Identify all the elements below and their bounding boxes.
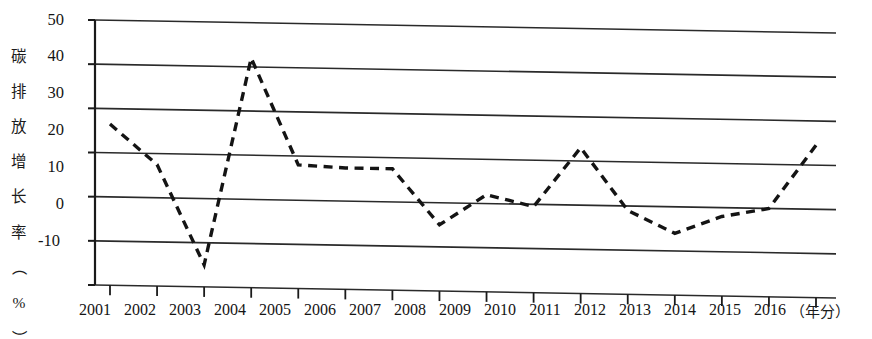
gridline-40 (95, 64, 836, 77)
gridline-50 (95, 20, 836, 33)
gridlines (95, 20, 836, 298)
data-series-line (110, 58, 816, 265)
gridline-30 (95, 108, 836, 121)
axis-lines (88, 20, 95, 285)
gridline--10 (95, 285, 836, 298)
gridline-0 (95, 241, 836, 254)
gridline-20 (95, 153, 836, 166)
